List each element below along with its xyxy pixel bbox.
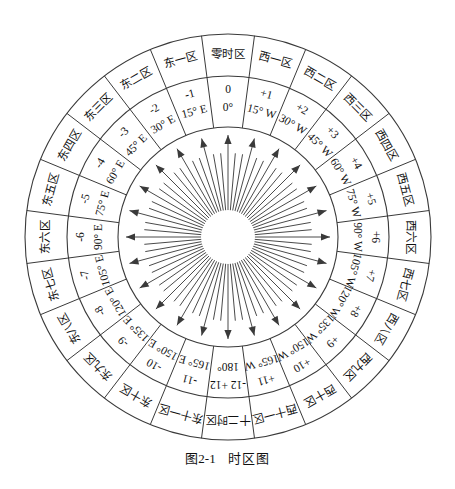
zone-offset-label: +2: [294, 100, 311, 117]
zone-offset-label: -3: [115, 124, 130, 139]
zone-name-label: 西六区: [405, 220, 417, 254]
timezone-diagram: 零时区西一区西二区西三区西四区西五区西六区西七区西八区西九区西十区西十一区十二时…: [0, 0, 455, 489]
sun-ray-arrow: [129, 242, 210, 264]
zone-name-label: 东三区: [82, 91, 115, 124]
sun-ray-arrow: [156, 165, 215, 224]
sun-ray-arrow: [237, 253, 279, 326]
zone-name-label: 西五区: [395, 171, 415, 207]
zone-meridian-label: 180°: [217, 361, 239, 373]
sun-ray-arrowhead: [129, 209, 139, 216]
zone-offset-label: -11: [181, 373, 199, 389]
sun-ray-arrow: [241, 250, 300, 309]
zone-offset-label: 0: [225, 83, 231, 95]
zone-offset-label: +6: [370, 231, 382, 243]
sun-ray-arrowhead: [249, 138, 256, 148]
zone-offset-label: -1: [183, 87, 196, 101]
zone-name-label: 西七区: [395, 266, 415, 302]
sun-ray: [199, 158, 222, 220]
zone-offset-label: +8: [348, 303, 365, 320]
sun-ray: [234, 158, 257, 220]
zone-meridian-label: 90° W: [352, 222, 364, 252]
zone-offset-label: +4: [348, 155, 365, 172]
zone-name-label: 东一区: [162, 50, 198, 70]
sun-ray-arrowhead: [177, 316, 185, 326]
zone-offset-label: -2: [147, 101, 162, 116]
sun-ray-arrowhead: [200, 326, 207, 336]
sun-ray: [245, 208, 307, 231]
zone-name-label: 东十一区: [157, 402, 204, 426]
zone-meridian-label: 165° W: [243, 353, 280, 374]
sun-ray-arrow: [140, 246, 213, 288]
zone-meridian-label: 15° E: [180, 102, 208, 120]
sun-ray-arrow: [245, 211, 326, 233]
zone-offset-label: -6: [74, 232, 86, 242]
zone-meridian-label: 75° E: [93, 189, 111, 217]
sun-ray-arrow: [245, 242, 326, 264]
zone-name-label: 东二区: [119, 64, 155, 91]
zone-name-label: 东八区: [55, 311, 82, 347]
sun-ray-arrow: [140, 186, 213, 228]
zone-name-label: 西十区: [302, 382, 338, 410]
sun-ray-arrow: [233, 254, 255, 335]
zone-meridian-label: 105° E: [92, 254, 112, 288]
zone-name-label: 东四区: [55, 128, 82, 164]
sun-ray-arrow: [177, 149, 219, 222]
zone-offset-label: +1: [259, 86, 274, 101]
sun-ray-arrow: [177, 253, 219, 326]
zone-meridian-label: 165° E: [177, 353, 211, 373]
zone-name-label: 东五区: [41, 171, 61, 207]
timezone-figure: 零时区西一区西二区西三区西四区西五区西六区西七区西八区西九区西十区西十一区十二时…: [0, 0, 455, 489]
sun-ray-arrowhead: [177, 149, 185, 159]
zone-name-label: 西八区: [373, 311, 400, 347]
sun-ray-arrowhead: [307, 280, 317, 288]
zone-name-label: 西三区: [341, 91, 374, 124]
zone-offset-label: +10: [291, 356, 313, 376]
sun-ray: [149, 208, 211, 231]
zone-name-label: 东十区: [118, 382, 154, 410]
zone-meridian-label: 75° W: [344, 187, 363, 219]
sun-ray-arrow: [244, 186, 317, 228]
sun-ray-arrowhead: [307, 186, 317, 194]
zone-offset-label: +5: [364, 191, 379, 206]
zone-offset-label: +9: [324, 333, 341, 350]
sun-ray-arrowhead: [224, 135, 231, 144]
zone-offset-label: -4: [92, 155, 107, 170]
sun-ray-arrowhead: [321, 233, 330, 240]
sun-ray-arrow: [156, 250, 215, 309]
zone-offset-label: +11: [256, 372, 276, 388]
zone-meridian-label: 90° E: [92, 224, 104, 250]
zone-name-label: 西九区: [341, 350, 374, 383]
sun-ray: [245, 243, 307, 266]
figure-caption: 图2-1时区图: [0, 448, 455, 467]
zone-offset-label: -7: [78, 269, 92, 282]
zone-name-label: 东六区: [39, 220, 51, 254]
sun-ray-arrowhead: [249, 326, 256, 336]
sun-ray-arrow: [202, 138, 224, 219]
zone-offset-label: -9: [115, 334, 130, 349]
zone-name-label: 十二时区: [205, 414, 251, 427]
zone-meridian-label: 15° W: [246, 101, 278, 120]
sun-ray-arrowhead: [317, 209, 327, 216]
zone-offset-label: +7: [364, 268, 379, 283]
zone-offset-label: -8: [92, 304, 107, 319]
sun-ray-arrowhead: [126, 233, 135, 240]
sun-ray: [234, 254, 257, 316]
zone-name-label: 东七区: [41, 266, 61, 302]
sun-ray-arrowhead: [140, 186, 150, 194]
sun-ray: [149, 243, 211, 266]
sun-ray-arrow: [202, 254, 224, 335]
zone-name-label: 西十一区: [252, 402, 299, 426]
sun-ray-arrowhead: [317, 258, 327, 265]
sun-center-icon: [201, 210, 255, 264]
sun-ray: [199, 254, 222, 316]
sun-ray-arrowhead: [200, 138, 207, 148]
sun-ray-arrow: [129, 211, 210, 233]
zone-name-label: 西二区: [302, 64, 338, 91]
sun-ray-arrow: [241, 165, 300, 224]
sun-ray-arrowhead: [271, 316, 279, 326]
sun-ray-arrowhead: [140, 280, 150, 288]
caption-number: 图2-1: [185, 451, 215, 466]
zone-meridian-label: 0°: [223, 101, 234, 113]
zone-offset-label: -5: [78, 192, 92, 205]
sun-ray-arrowhead: [129, 258, 139, 265]
